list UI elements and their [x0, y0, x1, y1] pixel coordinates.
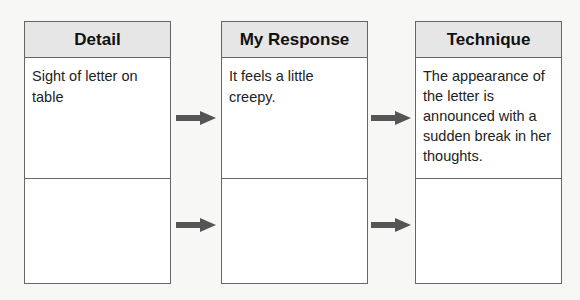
column-header: My Response [222, 22, 367, 58]
column-technique: Technique The appearance of the letter i… [415, 21, 562, 284]
arrow-right-icon [371, 218, 411, 232]
arrow-right-icon [176, 218, 216, 232]
column-my-response: My Response It feels a little creepy. [221, 21, 368, 284]
column-header: Detail [25, 22, 170, 58]
column-header: Technique [416, 22, 561, 58]
cell-row1: The appearance of the letter is announce… [416, 58, 561, 179]
cell-row2 [25, 179, 170, 284]
cell-row1: Sight of letter on table [25, 58, 170, 179]
cell-row2 [222, 179, 367, 284]
arrow-right-icon [371, 111, 411, 125]
column-detail: Detail Sight of letter on table [24, 21, 171, 284]
cell-row2 [416, 179, 561, 284]
arrow-right-icon [176, 111, 216, 125]
cell-row1: It feels a little creepy. [222, 58, 367, 179]
